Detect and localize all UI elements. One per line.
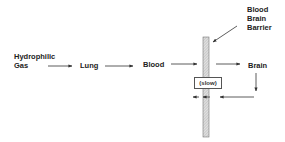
node-lung: Lung (80, 61, 98, 70)
label-line: Barrier (247, 23, 272, 32)
label-blood-brain-barrier: Blood Brain Barrier (247, 5, 272, 32)
arrow-label-pointer (213, 26, 237, 42)
node-blood: Blood (143, 60, 164, 69)
node-hydrophilic-gas: Hydrophilic Gas (14, 52, 55, 70)
node-brain: Brain (248, 61, 267, 70)
diagram-canvas (0, 0, 285, 142)
label-line: Blood (247, 5, 272, 14)
label-line: Brain (247, 14, 272, 23)
node-label: Gas (14, 61, 55, 70)
slow-label-box: (slow) (194, 77, 222, 89)
node-label: Hydrophilic (14, 52, 55, 61)
